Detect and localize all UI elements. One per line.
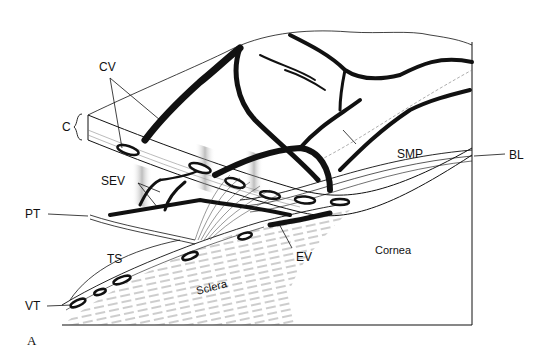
label-vt: VT (25, 300, 40, 312)
sclera-region (62, 203, 350, 325)
brace-c (74, 114, 82, 140)
vessels (110, 35, 472, 225)
ciliary-band (88, 115, 472, 216)
label-ts: TS (107, 253, 122, 265)
panel-label: A (27, 333, 36, 349)
label-bl: BL (509, 149, 524, 161)
anatomical-diagram (0, 0, 540, 351)
label-smp: SMP (397, 148, 423, 160)
label-c: C (62, 121, 71, 133)
cornea-layers (240, 150, 472, 212)
label-sev: SEV (101, 175, 125, 187)
label-cornea: Cornea (375, 245, 411, 256)
label-cv: CV (99, 61, 116, 73)
label-ev: EV (296, 251, 312, 263)
label-pt: PT (25, 208, 40, 220)
